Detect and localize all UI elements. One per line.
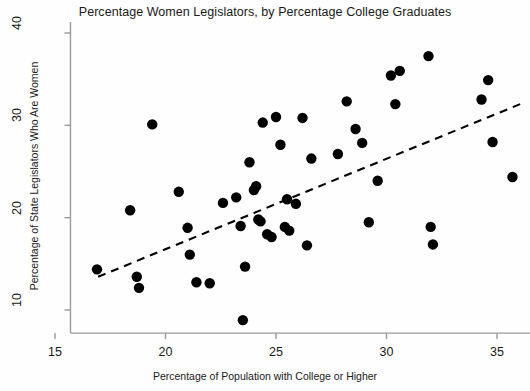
data-point [182,223,192,233]
data-point [282,194,292,204]
data-point [507,172,517,182]
x-tick-label: 20 [146,345,186,359]
trendline [98,104,520,277]
data-point [125,205,135,215]
x-tick-label: 30 [367,345,407,359]
data-point [342,96,352,106]
y-tick-label: 30 [0,108,39,142]
data-point [333,149,343,159]
data-point [266,232,276,242]
y-tick-label: 20 [0,201,39,235]
data-point [423,51,433,61]
x-axis-label: Percentage of Population with College or… [0,370,530,382]
data-point [205,278,215,288]
data-point [251,181,261,191]
data-point [240,261,250,271]
x-tick-label: 15 [35,345,75,359]
data-point [487,137,497,147]
data-point [271,112,281,122]
data-point [185,249,195,259]
data-point [284,225,294,235]
data-point [483,75,493,85]
data-point [174,187,184,197]
data-point [275,140,285,150]
data-point [218,198,228,208]
data-point [134,283,144,293]
data-point [302,240,312,250]
data-point [306,153,316,163]
data-point [235,221,245,231]
chart-container: Percentage Women Legislators, by Percent… [0,0,530,391]
data-point [258,117,268,127]
data-point [297,113,307,123]
data-point [395,66,405,76]
data-point [92,264,102,274]
data-point [428,239,438,249]
data-point [255,216,265,226]
data-point [364,217,374,227]
data-point [476,94,486,104]
plot-area [0,0,530,391]
data-point [132,272,142,282]
data-point [291,199,301,209]
y-tick-label: 10 [0,293,39,327]
scatter-svg [0,0,530,391]
data-point [191,277,201,287]
data-point [244,157,254,167]
data-point [426,222,436,232]
data-point [238,315,248,325]
x-tick-label: 25 [256,345,296,359]
data-point [231,192,241,202]
data-point [147,119,157,129]
data-point [390,99,400,109]
data-point [386,70,396,80]
data-point [372,176,382,186]
y-tick-label: 40 [0,16,39,50]
data-point [350,124,360,134]
data-points [92,51,518,325]
data-point [357,138,367,148]
x-tick-label: 35 [477,345,517,359]
